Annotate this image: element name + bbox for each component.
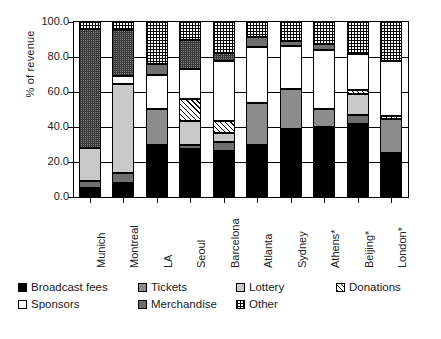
bar-segment-merchandise[interactable] [179, 145, 201, 149]
bar-segment-merchandise[interactable] [280, 41, 302, 45]
legend-label: Other [249, 298, 278, 310]
bar-segment-merchandise[interactable] [213, 142, 235, 151]
bar-seoul[interactable] [179, 22, 201, 197]
legend-swatch-merchandise-icon [138, 300, 147, 309]
bar-segment-lottery[interactable] [213, 133, 235, 142]
bar-la[interactable] [146, 22, 168, 197]
legend-label: Merchandise [151, 298, 217, 310]
x-axis-label-sydney: Sydney [296, 231, 308, 268]
bar-segment-sponsors[interactable] [213, 61, 235, 121]
x-axis-label-barcelona: Barcelona [229, 218, 241, 268]
bar-segment-merchandise[interactable] [246, 37, 268, 47]
bar-segment-other[interactable] [313, 22, 335, 44]
bar-atlanta[interactable] [246, 22, 268, 197]
bar-segment-donations[interactable] [380, 116, 402, 120]
legend-item-sponsors[interactable]: Sponsors [18, 298, 80, 310]
y-tick-label: 40.0 [48, 121, 69, 132]
legend-label: Lottery [249, 281, 284, 293]
bar-montreal[interactable] [112, 22, 134, 197]
x-axis-label-beijing: Beijing* [363, 231, 375, 268]
bar-segment-tickets[interactable] [280, 89, 302, 128]
x-tick [358, 198, 359, 203]
bar-segment-broadcast[interactable] [313, 127, 335, 197]
bar-segment-other[interactable] [347, 22, 369, 53]
bar-segment-broadcast[interactable] [146, 145, 168, 198]
bar-segment-broadcast[interactable] [112, 183, 134, 197]
bar-segment-other[interactable] [112, 22, 134, 30]
bar-segment-broadcast[interactable] [213, 151, 235, 197]
bar-beijing[interactable] [347, 22, 369, 197]
bar-segment-other[interactable] [179, 22, 201, 40]
bar-segment-other[interactable] [146, 22, 168, 64]
x-axis-label-atlanta: Atlanta [262, 234, 274, 268]
legend-item-other[interactable]: Other [236, 298, 278, 310]
legend-swatch-lottery-icon [236, 283, 245, 292]
bar-segment-lottery[interactable] [347, 94, 369, 115]
x-axis-label-london: London* [396, 227, 408, 268]
bar-sydney[interactable] [280, 22, 302, 197]
bar-segment-sponsors[interactable] [280, 46, 302, 90]
legend-swatch-tickets-icon [138, 283, 147, 292]
bar-segment-other[interactable] [246, 22, 268, 37]
bar-segment-merchandise[interactable] [347, 115, 369, 125]
bar-segment-merchandise[interactable] [79, 181, 101, 188]
bar-segment-broadcast[interactable] [347, 124, 369, 197]
legend-item-merchandise[interactable]: Merchandise [138, 298, 217, 310]
bar-segment-sponsors[interactable] [347, 54, 369, 90]
y-tick-label: 80.0 [48, 51, 69, 62]
bar-segment-broadcast[interactable] [179, 149, 201, 197]
bar-segment-broadcast[interactable] [380, 153, 402, 197]
bar-barcelona[interactable] [213, 22, 235, 197]
legend-row-2: SponsorsMerchandiseOther [18, 298, 428, 315]
bar-segment-sponsors[interactable] [112, 76, 134, 84]
bar-segment-broadcast[interactable] [246, 145, 268, 198]
bar-segment-other[interactable] [380, 22, 402, 61]
bar-london[interactable] [380, 22, 402, 197]
bar-segment-lottery[interactable] [179, 121, 201, 145]
legend-item-tickets[interactable]: Tickets [138, 281, 187, 293]
legend-label: Sponsors [31, 298, 80, 310]
bar-segment-tickets[interactable] [313, 109, 335, 127]
bar-segment-merchandise[interactable] [112, 173, 134, 184]
bar-segment-merchandise[interactable] [146, 64, 168, 75]
bar-segment-tickets[interactable] [380, 119, 402, 153]
bar-segment-sponsors[interactable] [313, 50, 335, 109]
bar-segment-other-dark[interactable] [213, 53, 235, 62]
bar-segment-donations[interactable] [179, 99, 201, 121]
bar-segment-tickets[interactable] [246, 103, 268, 145]
bar-segment-sponsors[interactable] [179, 69, 201, 99]
bar-segment-lottery[interactable] [112, 84, 134, 172]
bar-segment-sponsors[interactable] [246, 47, 268, 103]
bar-segment-sponsors[interactable] [380, 61, 402, 116]
legend-swatch-sponsors-icon [18, 300, 27, 309]
x-tick [391, 198, 392, 203]
bar-segment-merchandise[interactable] [347, 52, 369, 54]
legend-swatch-donations-icon [336, 283, 345, 292]
legend-item-lottery[interactable]: Lottery [236, 281, 284, 293]
bar-segment-other-dark[interactable] [179, 40, 201, 70]
bar-segment-other[interactable] [79, 22, 101, 29]
bar-segment-other[interactable] [280, 22, 302, 41]
x-tick [324, 198, 325, 203]
bar-segment-sponsors[interactable] [146, 75, 168, 109]
y-axis-title: % of revenue [24, 0, 36, 134]
bar-segment-donations[interactable] [347, 90, 369, 94]
bar-segment-broadcast[interactable] [79, 188, 101, 197]
bar-segment-merchandise[interactable] [313, 44, 335, 50]
y-tick-label: 100.0 [41, 16, 69, 27]
bar-segment-other-dark[interactable] [79, 29, 101, 148]
bar-segment-donations[interactable] [213, 121, 235, 133]
x-tick [291, 198, 292, 203]
legend-label: Donations [349, 281, 401, 293]
legend-item-broadcast[interactable]: Broadcast fees [18, 281, 108, 293]
x-tick [123, 198, 124, 203]
bar-athens[interactable] [313, 22, 335, 197]
bar-segment-other[interactable] [213, 22, 235, 53]
bar-segment-lottery[interactable] [79, 148, 101, 181]
legend-item-donations[interactable]: Donations [336, 281, 401, 293]
x-axis-label-athens: Athens* [329, 229, 341, 268]
bar-munich[interactable] [79, 22, 101, 197]
bar-segment-tickets[interactable] [146, 109, 168, 145]
bar-segment-broadcast[interactable] [280, 129, 302, 197]
bar-segment-other-dark[interactable] [112, 30, 134, 76]
